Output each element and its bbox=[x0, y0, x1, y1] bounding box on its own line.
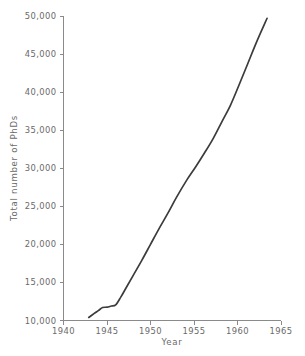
x-tick-label: 1950 bbox=[139, 326, 162, 336]
y-tick-label: 20,000 bbox=[25, 239, 57, 249]
x-axis-title: Year bbox=[161, 337, 183, 347]
y-axis-title: Total number of PhDs bbox=[9, 115, 19, 222]
y-tick-label: 15,000 bbox=[25, 277, 57, 287]
y-tick-label: 35,000 bbox=[25, 125, 57, 135]
y-tick-label: 25,000 bbox=[25, 201, 57, 211]
y-tick-label: 10,000 bbox=[25, 316, 57, 326]
y-tick-label: 30,000 bbox=[25, 163, 57, 173]
y-tick-label: 40,000 bbox=[25, 87, 57, 97]
x-tick-label: 1940 bbox=[52, 326, 75, 336]
chart-figure: 10,00015,00020,00025,00030,00035,00040,0… bbox=[0, 0, 305, 356]
x-tick-label: 1945 bbox=[96, 326, 119, 336]
y-tick-label: 50,000 bbox=[25, 11, 57, 21]
line-chart: 10,00015,00020,00025,00030,00035,00040,0… bbox=[0, 0, 305, 356]
x-tick-label: 1955 bbox=[183, 326, 206, 336]
x-tick-label: 1965 bbox=[270, 326, 293, 336]
y-tick-label: 45,000 bbox=[25, 49, 57, 59]
x-tick-label: 1960 bbox=[226, 326, 249, 336]
